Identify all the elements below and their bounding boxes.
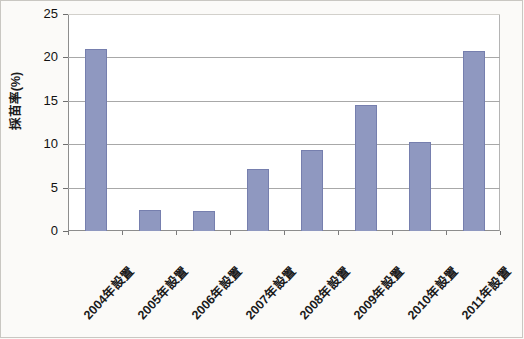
bar[interactable]: [139, 210, 161, 231]
x-axis-tick-label: 2006年設置: [186, 261, 245, 323]
y-axis-tick: [63, 188, 68, 189]
x-axis-tick: [338, 231, 339, 235]
bar[interactable]: [355, 105, 377, 231]
bar-slot: [285, 14, 339, 231]
bar-slot: [339, 14, 393, 231]
x-axis-tick: [68, 231, 69, 235]
y-axis-tick-label: 25: [30, 6, 58, 21]
y-axis-tick: [63, 14, 68, 15]
y-axis-tick: [63, 101, 68, 102]
x-axis-tick: [284, 231, 285, 235]
bar[interactable]: [85, 49, 107, 231]
x-axis-tick: [500, 231, 501, 235]
chart-screenshot: 採苗率(%) 0510152025 2004年設置2005年設置2006年設置2…: [0, 0, 524, 339]
y-axis-tick-label: 5: [30, 180, 58, 195]
x-axis-tick-label: 2007年設置: [240, 261, 299, 323]
bar[interactable]: [301, 150, 323, 231]
bar-slot: [447, 14, 501, 231]
x-axis-tick-label: 2011年設置: [456, 262, 515, 323]
x-axis-tick-label: 2009年設置: [348, 261, 407, 323]
bar[interactable]: [463, 51, 485, 231]
x-axis-tick: [392, 231, 393, 235]
x-axis-tick: [230, 231, 231, 235]
bars-group: [69, 14, 499, 231]
bar-slot: [231, 14, 285, 231]
bar-slot: [177, 14, 231, 231]
y-axis-tick-label: 15: [30, 93, 58, 108]
bar[interactable]: [409, 142, 431, 231]
bar[interactable]: [247, 169, 269, 231]
y-axis-tick-label: 10: [30, 136, 58, 151]
x-axis-tick: [122, 231, 123, 235]
x-axis-tick-label: 2005年設置: [132, 261, 191, 323]
x-axis-tick-label: 2004年設置: [78, 261, 137, 323]
y-axis-tick: [63, 57, 68, 58]
bar-slot: [123, 14, 177, 231]
bar[interactable]: [193, 211, 215, 231]
x-axis-tick: [446, 231, 447, 235]
y-axis-tick: [63, 144, 68, 145]
x-axis-tick: [176, 231, 177, 235]
x-axis-tick-label: 2008年設置: [294, 261, 353, 323]
bar-slot: [69, 14, 123, 231]
y-axis-tick-label: 20: [30, 49, 58, 64]
bar-slot: [393, 14, 447, 231]
x-axis-tick-label: 2010年設置: [402, 261, 461, 323]
y-axis-title: 採苗率(%): [7, 61, 25, 141]
y-axis-tick-label: 0: [30, 223, 58, 238]
